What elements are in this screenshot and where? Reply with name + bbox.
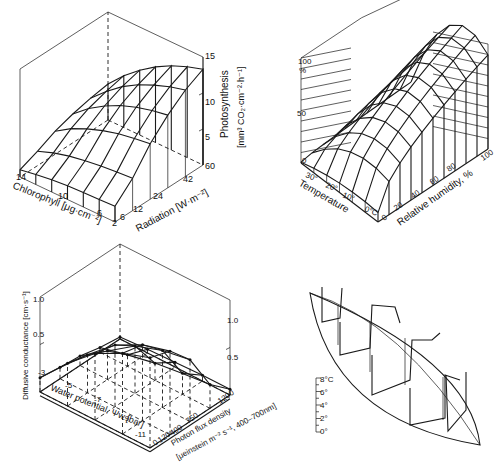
data-point (169, 350, 172, 353)
data-point (94, 352, 97, 355)
y-tick: 0 (380, 212, 389, 222)
y-tick: 80 (445, 161, 458, 174)
scale-tick: 6° (320, 388, 328, 397)
data-point (121, 352, 124, 355)
temperature-profile-section (372, 333, 440, 395)
z-tick: 100 (298, 57, 312, 66)
leaf-midrib (310, 293, 480, 445)
data-point (149, 356, 152, 359)
panel-diffusive-conductance: 1.0 0.5 1.0 0.5 Diffusive conductance [c… (21, 244, 278, 462)
y-tick: 42 (183, 174, 193, 184)
temperature-profile-section (410, 375, 460, 425)
panel-photosynthesis: 15 10 5 60 Photosynthesis [mm³ CO₂·cm⁻²·… (11, 12, 246, 234)
z-tick-left: 1.0 (33, 295, 45, 304)
z-tick-mark (226, 348, 230, 350)
data-point (134, 345, 137, 348)
y-tick: 1200 (216, 388, 236, 406)
data-point (106, 350, 109, 353)
z-tick-right: 1.0 (227, 316, 239, 325)
x-tick: 0°C (363, 205, 379, 218)
wall-line (301, 69, 351, 79)
frame-top (40, 244, 230, 300)
z-tick: 0 (302, 156, 307, 165)
z-tick: 15 (205, 51, 215, 61)
y-tick: 6 (120, 212, 125, 222)
data-point (114, 344, 117, 347)
z-tick: 10 (205, 97, 215, 107)
scale-tick: 8°C (320, 375, 334, 384)
z-unit: % (299, 66, 306, 75)
z-tick-mark (40, 343, 44, 345)
data-point (99, 346, 102, 349)
y-tick: 20 (392, 200, 405, 213)
frame (301, 0, 488, 163)
x-axis-label: Water potential, Ψw [bar] (49, 383, 145, 430)
data-point (79, 355, 82, 358)
frame-top (301, 0, 419, 58)
wall-line (433, 127, 488, 139)
z-tick-left: 0.5 (33, 330, 45, 339)
y-tick: 12 (133, 204, 143, 214)
data-point (174, 361, 177, 364)
data-point (154, 362, 157, 365)
data-point (189, 358, 192, 361)
data-point (59, 366, 62, 369)
y-tick: 100 (479, 147, 496, 162)
scale-tick: 0° (320, 427, 328, 436)
z-tick: 5 (205, 132, 210, 142)
z-tick-mark (199, 93, 203, 95)
z-tick: 50 (297, 109, 306, 118)
ticks (199, 93, 203, 131)
leaf-outline-path (310, 293, 480, 445)
x-tick: -3 (38, 368, 46, 377)
data-point (146, 348, 149, 351)
y-axis-label: Radiation [W·m⁻²] (134, 186, 210, 233)
panel-leaf-temperature-profiles: 8°C 6° 4° 2° 0° (310, 287, 480, 445)
scale-tick: 4° (320, 401, 328, 410)
data-point (161, 349, 164, 352)
wall-line (301, 80, 351, 90)
scale-tick: 2° (320, 414, 328, 423)
data-point (181, 372, 184, 375)
y-tick-end: 60 (205, 161, 215, 171)
x-tick: 2 (112, 218, 117, 228)
z-tick-mark (199, 129, 203, 131)
leaf-outline (310, 287, 480, 445)
z-tick-right: 0.5 (227, 353, 239, 362)
z-axis-label: Diffusive conductance [cm·s⁻¹] (21, 291, 30, 400)
z-axis-label: Photosynthesis (219, 70, 230, 138)
data-point (209, 383, 212, 386)
figure-canvas: 15 10 5 60 Photosynthesis [mm³ CO₂·cm⁻²·… (0, 0, 500, 475)
x-tick: -11 (135, 430, 147, 439)
data-point (201, 374, 204, 377)
frame (20, 12, 203, 222)
wall-line (433, 116, 488, 128)
wall-line (301, 111, 351, 121)
floor-edge (20, 120, 108, 177)
data-point (86, 353, 89, 356)
wall-line (301, 90, 351, 100)
data-point (119, 336, 122, 339)
y-tick: 24 (153, 191, 163, 201)
wall-line (301, 101, 351, 111)
grid-line-temperature (301, 82, 411, 162)
x-axis-label: Chlorophyll [μg·cm⁻²] (11, 180, 103, 226)
data-point (141, 343, 144, 346)
z-axis-unit: [mm³ CO₂·cm⁻²·h⁻¹] (236, 67, 246, 148)
data-point (126, 353, 129, 356)
y-tick: 60 (428, 174, 441, 187)
data-point (66, 362, 69, 365)
panel-temperature-humidity: 100 % 50 0 30° 20° 10° 0°C Temperature 0… (297, 0, 496, 228)
